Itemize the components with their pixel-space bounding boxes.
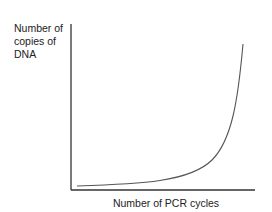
growth-curve <box>77 44 243 186</box>
x-axis-label: Number of PCR cycles <box>60 197 272 209</box>
chart-plot <box>0 0 272 212</box>
